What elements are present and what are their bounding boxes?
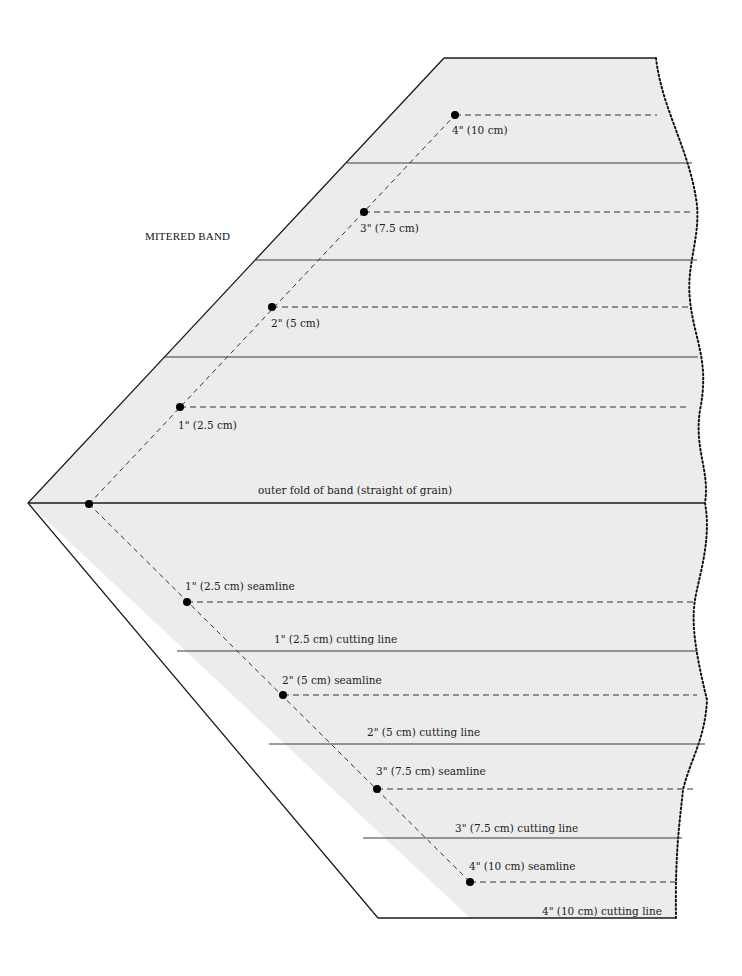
lower-mark-dot-2	[279, 691, 287, 699]
fold-label: outer fold of band (straight of grain)	[258, 484, 452, 496]
lower-seamline-label-1: 1" (2.5 cm) seamline	[185, 580, 295, 592]
upper-mark-dot-3	[360, 208, 368, 216]
diagram-title: MITERED BAND	[145, 230, 230, 242]
upper-mark-dot-2	[268, 303, 276, 311]
lower-cutting-label-2: 2" (5 cm) cutting line	[367, 726, 480, 738]
lower-seamline-label-4: 4" (10 cm) seamline	[469, 860, 575, 872]
lower-mark-dot-1	[183, 598, 191, 606]
upper-mark-dot-1	[176, 403, 184, 411]
lower-mark-dot-4	[466, 878, 474, 886]
upper-mark-label-3: 3" (7.5 cm)	[360, 222, 419, 234]
upper-mark-label-4: 4" (10 cm)	[452, 124, 508, 136]
lower-cutting-label-3: 3" (7.5 cm) cutting line	[455, 822, 578, 834]
mitered-band-diagram: MITERED BAND 4" (10 cm) 3" (7.5 cm) 2" (…	[0, 0, 742, 976]
upper-mark-dot-4	[451, 111, 459, 119]
lower-seamline-label-3: 3" (7.5 cm) seamline	[376, 765, 486, 777]
fold-point-dot	[85, 500, 93, 508]
lower-seamline-label-2: 2" (5 cm) seamline	[282, 674, 382, 686]
upper-mark-label-2: 2" (5 cm)	[271, 317, 320, 329]
lower-cutting-label-1: 1" (2.5 cm) cutting line	[274, 633, 397, 645]
lower-mark-dot-3	[373, 785, 381, 793]
upper-mark-label-1: 1" (2.5 cm)	[178, 419, 237, 431]
lower-cutting-label-4: 4" (10 cm) cutting line	[542, 905, 662, 917]
